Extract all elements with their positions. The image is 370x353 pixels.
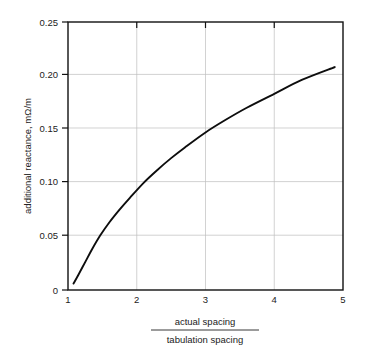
x-tick-label-1: 1 <box>65 294 70 305</box>
x-axis-title-numerator: actual spacing <box>175 316 236 327</box>
y-axis-title: additional reactance, mΩ/m <box>22 98 33 214</box>
x-tick-label-4: 4 <box>272 294 277 305</box>
y-tick-label-0.15: 0.15 <box>40 123 59 134</box>
y-tick-label-0.25: 0.25 <box>40 17 59 28</box>
chart-figure: 0.25 0.20 0.15 0.10 0.05 0 1 2 3 4 5 add… <box>0 0 370 353</box>
y-tick-label-0.10: 0.10 <box>40 176 59 187</box>
reactance-line-chart: 0.25 0.20 0.15 0.10 0.05 0 1 2 3 4 5 add… <box>0 0 370 353</box>
y-tick-label-0.20: 0.20 <box>40 69 59 80</box>
y-tick-label-0: 0 <box>53 285 58 296</box>
x-axis-title-denominator: tabulation spacing <box>167 334 244 345</box>
x-tick-label-2: 2 <box>134 294 139 305</box>
x-tick-label-5: 5 <box>340 294 345 305</box>
x-tick-label-3: 3 <box>203 294 208 305</box>
y-tick-label-0.05: 0.05 <box>40 230 59 241</box>
